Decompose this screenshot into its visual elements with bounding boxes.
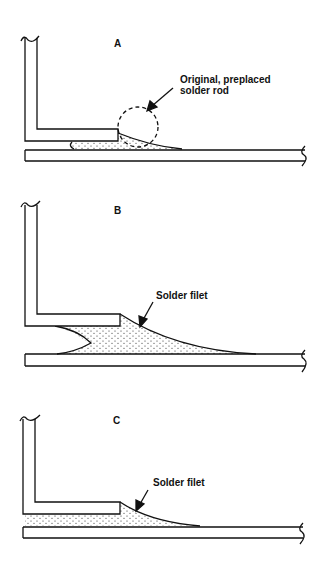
callout-solder-filet-b: Solder filet xyxy=(156,290,208,301)
callout-line-2: solder rod xyxy=(180,85,271,96)
callout-original-solder-rod: Original, preplaced solder rod xyxy=(180,74,271,96)
panel-letter-a: A xyxy=(114,38,121,49)
callout-solder-filet-c: Solder filet xyxy=(153,477,205,488)
bracket-b xyxy=(25,205,120,326)
bracket-a xyxy=(25,38,118,141)
panel-b xyxy=(21,201,306,372)
base-plate-a xyxy=(25,150,305,161)
panel-letter-c: C xyxy=(113,415,120,426)
base-plate-c xyxy=(23,527,303,538)
bracket-c xyxy=(23,419,120,514)
panel-a xyxy=(21,36,306,166)
callout-line-1: Original, preplaced xyxy=(180,74,271,85)
base-plate-b xyxy=(25,354,305,366)
panel-letter-b: B xyxy=(114,205,121,216)
